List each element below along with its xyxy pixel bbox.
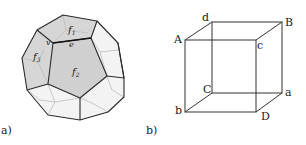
panel-a-label: a) — [1, 124, 12, 137]
dodecahedron: f1 f3 f2 v e — [22, 15, 124, 120]
cube-back-face — [212, 22, 282, 93]
label-c: c — [257, 39, 263, 52]
figure-canvas: f1 f3 f2 v e a) A d B c C a b D b) — [0, 0, 306, 145]
label-vertex-v: v — [46, 38, 51, 47]
label-D: D — [261, 110, 270, 123]
label-d: d — [202, 11, 209, 24]
panel-b-label: b) — [146, 124, 157, 137]
edge-A-d — [185, 22, 212, 40]
label-a: a — [285, 86, 292, 99]
cube-front-face — [185, 40, 256, 112]
label-edge-e: e — [69, 40, 74, 49]
label-b: b — [175, 104, 182, 117]
edge-c-B — [256, 22, 282, 40]
label-C: C — [203, 83, 211, 96]
label-A: A — [173, 33, 183, 46]
cube-labels: A d B c C a b D — [173, 11, 293, 123]
label-B: B — [285, 16, 293, 29]
cube — [185, 22, 282, 112]
